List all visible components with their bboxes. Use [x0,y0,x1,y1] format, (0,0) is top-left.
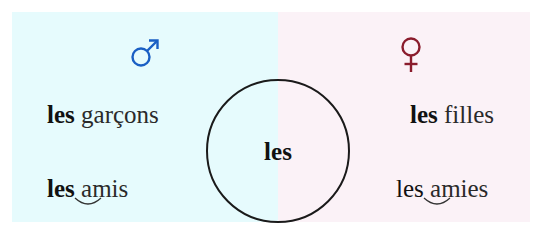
noun: garçons [81,101,159,128]
liaison-arc-icon [73,196,103,208]
male-symbol-icon [128,36,162,70]
phrase-les-amies: les amies [396,176,488,201]
liaison-group: les [47,176,75,201]
phrase-les-filles: les filles [410,102,494,127]
center-label: les [208,139,348,164]
shared-circle: les [206,79,350,223]
liaison-group: les [396,176,424,201]
noun: filles [444,101,494,128]
determiner: les [410,101,438,128]
liaison-arc-icon [422,196,452,208]
phrase-les-garcons: les garçons [47,102,159,127]
female-symbol-icon [396,35,426,75]
determiner: les [47,101,75,128]
phrase-les-amis: les amis [47,176,128,201]
determiner: les [396,175,424,202]
determiner: les [47,175,75,202]
